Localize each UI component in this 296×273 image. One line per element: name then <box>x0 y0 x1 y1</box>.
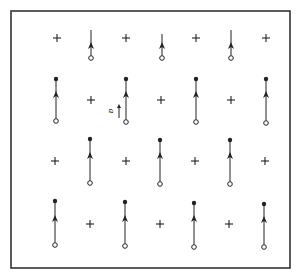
open-circle-icon <box>158 182 163 187</box>
filled-dot-icon <box>54 77 58 81</box>
plus-site-icon <box>87 96 95 104</box>
legend-arrow-head-icon <box>117 104 121 108</box>
plus-site-icon <box>192 34 200 42</box>
plus-site-icon <box>225 220 233 228</box>
vector-arrow-icon <box>122 200 128 249</box>
open-circle-icon <box>194 120 199 125</box>
plus-site-icon <box>53 34 61 42</box>
plus-site-icon <box>122 34 130 42</box>
lattice-items <box>51 30 270 249</box>
vector-arrow-icon <box>157 138 163 187</box>
lattice-diagram <box>0 0 296 273</box>
open-circle-icon <box>53 243 58 248</box>
plus-site-icon <box>156 220 164 228</box>
plus-site-icon <box>86 220 94 228</box>
open-circle-icon <box>229 56 234 61</box>
filled-dot-icon <box>123 200 127 204</box>
open-circle-icon <box>192 245 197 250</box>
filled-dot-icon <box>88 137 92 141</box>
open-circle-icon <box>54 119 59 124</box>
vector-arrow-icon <box>193 77 199 124</box>
plus-site-icon <box>261 157 269 165</box>
plus-site-icon <box>227 96 235 104</box>
vector-arrow-icon <box>159 34 165 60</box>
filled-dot-icon <box>158 138 162 142</box>
filled-dot-icon <box>262 202 266 206</box>
plus-site-icon <box>191 157 199 165</box>
open-circle-icon <box>89 56 94 61</box>
open-circle-icon <box>228 182 233 187</box>
legend-label-a: a <box>107 109 117 114</box>
vector-arrow-icon <box>261 202 267 250</box>
vector-arrow-icon <box>52 199 58 248</box>
diagram-frame <box>11 11 290 268</box>
open-circle-icon <box>88 181 93 186</box>
vector-arrow-icon <box>87 137 93 186</box>
filled-dot-icon <box>194 77 198 81</box>
plus-site-icon <box>262 34 270 42</box>
filled-dot-icon <box>124 77 128 81</box>
vector-arrow-icon <box>53 77 59 123</box>
open-circle-icon <box>123 244 128 249</box>
plus-site-icon <box>122 157 130 165</box>
plus-site-icon <box>157 96 165 104</box>
vector-arrow-icon <box>88 30 94 60</box>
vector-arrow-icon <box>227 138 233 187</box>
filled-dot-icon <box>53 199 57 203</box>
open-circle-icon <box>124 120 129 125</box>
legend-vector-a <box>117 104 121 118</box>
vector-arrow-icon <box>228 30 234 60</box>
vector-arrow-icon <box>263 77 269 125</box>
vector-arrow-icon <box>191 201 197 250</box>
open-circle-icon <box>264 121 269 126</box>
plus-site-icon <box>51 157 59 165</box>
filled-dot-icon <box>264 77 268 81</box>
vector-arrow-icon <box>123 77 129 124</box>
filled-dot-icon <box>228 138 232 142</box>
open-circle-icon <box>160 56 165 61</box>
filled-dot-icon <box>192 201 196 205</box>
open-circle-icon <box>262 245 267 250</box>
